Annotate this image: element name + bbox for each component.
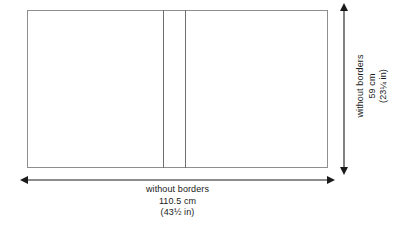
dimension-diagram: without borders 110.5 cm (43½ in) withou… — [0, 0, 407, 237]
width-dimension-caption: without borders 110.5 cm (43½ in) — [27, 184, 328, 219]
width-caption-metric: 110.5 cm — [27, 196, 328, 208]
height-caption-label: without borders — [355, 10, 367, 162]
height-caption-imperial: (23¼ in) — [378, 10, 390, 162]
width-caption-imperial: (43½ in) — [27, 207, 328, 219]
height-dimension-caption: without borders 59 cm (23¼ in) — [355, 10, 390, 162]
width-caption-label: without borders — [27, 184, 328, 196]
height-caption-metric: 59 cm — [367, 10, 379, 162]
